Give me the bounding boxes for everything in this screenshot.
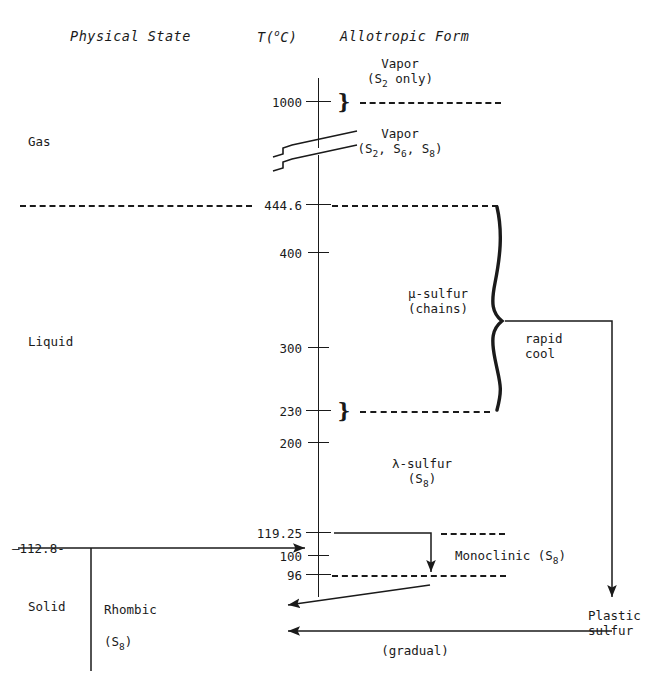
- vapor-s2-line1: Vapor: [367, 56, 433, 71]
- axis-label-text-200: 200: [279, 436, 302, 451]
- sulfur-phase-diagram: Physical State T(oC) Allotropic Form Gas…: [0, 0, 653, 682]
- axis-label-200: 200: [279, 436, 302, 451]
- column-header-temperature: T(oC): [257, 28, 297, 45]
- axis-tick-230: [306, 410, 331, 411]
- axis-label-444-6: 444.6: [264, 198, 302, 213]
- temperature-axis-lower: [318, 155, 319, 597]
- axis-break-icon: [273, 131, 357, 171]
- boundary-dash-96: [332, 575, 506, 577]
- lambda-sulfur-line1: λ-sulfur: [392, 456, 452, 471]
- axis-label-119-25: 119.25: [257, 526, 302, 541]
- boundary-dash-119-25: [441, 533, 505, 535]
- header-text-temperature-suffix: C): [280, 29, 297, 45]
- temperature-axis-upper: [318, 78, 319, 148]
- axis-label-100: 100: [279, 549, 302, 564]
- boundary-dash-444-6-left: [20, 205, 252, 207]
- axis-label-text-230: 230: [279, 404, 302, 419]
- annotation-rapid-cool: rapid cool: [525, 331, 563, 361]
- monoclinic-text: Monoclinic (S: [455, 548, 553, 563]
- monoclinic-closeparen: ): [559, 548, 567, 563]
- annotation-transition-112-8: —112.8-: [12, 541, 65, 556]
- brace-glyph-230: }: [338, 399, 351, 423]
- vapor-s2-line2: (S2 only): [367, 71, 433, 91]
- vapor-mixed-p4: ): [435, 141, 443, 156]
- axis-label-230: 230: [279, 404, 302, 419]
- axis-label-text-100: 100: [279, 549, 302, 564]
- axis-label-text-1000: 1000: [272, 95, 302, 110]
- axis-label-96: 96: [287, 568, 302, 583]
- vapor-mixed-p2: , S: [378, 141, 401, 156]
- column-header-physical-state: Physical State: [70, 28, 191, 44]
- plastic-sulfur-line2: sulfur: [588, 623, 641, 638]
- axis-label-1000: 1000: [272, 95, 302, 110]
- state-text-gas: Gas: [28, 134, 51, 149]
- axis-label-text-300: 300: [279, 341, 302, 356]
- allotrope-label-rhombic: Rhombic (S8): [104, 594, 157, 663]
- axis-label-text-444-6: 444.6: [264, 198, 302, 213]
- axis-tick-1000: [306, 101, 331, 102]
- axis-label-text-119-25: 119.25: [257, 526, 302, 541]
- column-header-allotropic-form: Allotropic Form: [340, 28, 469, 44]
- boundary-dash-1000: [360, 102, 501, 104]
- axis-label-400: 400: [279, 246, 302, 261]
- rhombic-line2: (S8): [104, 626, 157, 663]
- rhombic-paren: (S: [104, 634, 119, 649]
- annotation-gradual: (gradual): [381, 643, 449, 658]
- lambda-sulfur-paren: (S: [408, 471, 423, 486]
- axis-tick-300: [308, 347, 329, 348]
- axis-tick-100: [308, 555, 329, 556]
- mu-sulfur-line1: μ-sulfur: [408, 286, 468, 301]
- plastic-sulfur-line1: Plastic: [588, 608, 641, 623]
- vapor-mixed-line1: Vapor: [358, 126, 443, 141]
- state-text-liquid: Liquid: [28, 334, 73, 349]
- vapor-s2-only: only): [388, 71, 433, 86]
- rapid-cool-line1: rapid: [525, 331, 563, 346]
- vapor-mixed-p1: (S: [358, 141, 373, 156]
- large-brace-mu-sulfur-icon: [493, 207, 502, 410]
- boundary-dash-230: [360, 411, 490, 413]
- brace-glyph-1000: }: [338, 90, 351, 114]
- axis-label-text-400: 400: [279, 246, 302, 261]
- transition-112-8-text: —112.8-: [12, 541, 65, 556]
- allotrope-label-plastic-sulfur: Plastic sulfur: [588, 608, 641, 638]
- vapor-mixed-p3: , S: [407, 141, 430, 156]
- state-label-solid: Solid: [28, 599, 66, 614]
- lambda-sulfur-closeparen: ): [429, 471, 437, 486]
- header-text-allotropic-form: Allotropic Form: [340, 28, 469, 44]
- brace-icon-1000: }: [338, 92, 351, 112]
- header-text-physical-state: Physical State: [70, 28, 191, 44]
- state-text-solid: Solid: [28, 599, 66, 614]
- rapid-cool-line2: cool: [525, 346, 563, 361]
- header-text-temperature-prefix: T(: [257, 29, 274, 45]
- gradual-text: (gradual): [381, 643, 449, 658]
- axis-tick-96: [306, 574, 331, 575]
- monoclinic-formation-arrow: [334, 533, 431, 572]
- lambda-sulfur-line2: (S8): [392, 471, 452, 491]
- brace-icon-230: }: [338, 401, 351, 421]
- allotrope-label-vapor-s2: Vapor (S2 only): [367, 56, 433, 91]
- allotrope-label-lambda-sulfur: λ-sulfur (S8): [392, 456, 452, 491]
- rhombic-line1: Rhombic: [104, 594, 157, 626]
- rhombic-closeparen: ): [125, 634, 133, 649]
- allotrope-label-monoclinic: Monoclinic (S8): [455, 548, 566, 568]
- monoclinic-to-rhombic-arrow: [288, 585, 430, 605]
- boundary-dash-444-6-right: [332, 205, 498, 207]
- allotrope-label-vapor-mixed: Vapor (S2, S6, S8): [358, 126, 443, 161]
- state-label-liquid: Liquid: [28, 334, 73, 349]
- axis-tick-200: [308, 442, 329, 443]
- axis-label-text-96: 96: [287, 568, 302, 583]
- axis-tick-444-6: [306, 204, 331, 205]
- vapor-s2-paren: (S: [367, 71, 382, 86]
- axis-tick-400: [308, 252, 329, 253]
- state-label-gas: Gas: [28, 134, 51, 149]
- vapor-mixed-line2: (S2, S6, S8): [358, 141, 443, 161]
- allotrope-label-mu-sulfur: μ-sulfur (chains): [408, 286, 468, 316]
- axis-label-300: 300: [279, 341, 302, 356]
- axis-tick-119-25: [306, 532, 331, 533]
- mu-sulfur-line2: (chains): [408, 301, 468, 316]
